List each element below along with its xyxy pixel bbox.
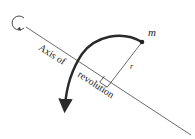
mass-point bbox=[140, 40, 145, 45]
revolution-diagram: m r Axis of revolution bbox=[0, 0, 195, 139]
axis-label-line1: Axis of bbox=[37, 41, 68, 67]
mass-label: m bbox=[148, 26, 156, 38]
radius-line bbox=[112, 42, 142, 81]
axis-line bbox=[26, 27, 191, 135]
radius-label: r bbox=[130, 62, 134, 71]
rotation-loop-icon bbox=[12, 16, 24, 31]
